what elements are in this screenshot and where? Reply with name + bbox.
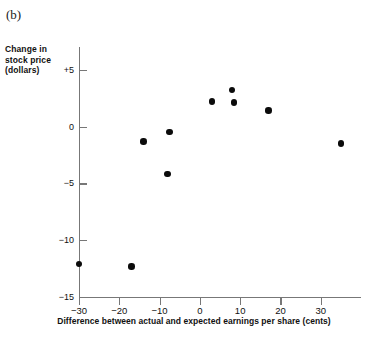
y-tick-mark xyxy=(80,183,87,184)
x-axis-line xyxy=(79,297,361,298)
plot-area: +50−5−10−15 −30−20−100102030 xyxy=(79,47,361,297)
y-tick-mark xyxy=(80,127,87,128)
scatter-point xyxy=(209,98,215,104)
x-tick-mark xyxy=(321,298,322,305)
x-tick-label: 30 xyxy=(315,306,326,316)
x-axis-title: Difference between actual and expected e… xyxy=(0,316,388,326)
y-tick-mark xyxy=(80,70,87,71)
scatter-point xyxy=(164,171,170,177)
x-tick-label: −20 xyxy=(111,306,127,316)
x-tick-mark xyxy=(160,298,161,305)
y-tick-mark xyxy=(80,240,87,241)
y-tick-label: 0 xyxy=(69,122,74,131)
x-tick-label: −10 xyxy=(152,306,168,316)
x-tick-label: −30 xyxy=(71,306,87,316)
scatter-point xyxy=(265,107,271,113)
x-tick-mark xyxy=(240,298,241,305)
scatter-point xyxy=(166,129,172,135)
y-axis-line xyxy=(79,47,80,297)
x-tick-label: 0 xyxy=(197,306,202,316)
panel-label: (b) xyxy=(6,8,21,22)
scatter-point xyxy=(338,140,344,146)
y-tick-label: −10 xyxy=(59,236,74,245)
x-tick-label: 10 xyxy=(235,306,246,316)
x-tick-mark xyxy=(79,298,80,305)
x-tick-mark xyxy=(119,298,120,305)
y-axis-title-line-1: Change in xyxy=(5,44,83,55)
y-tick-label: +5 xyxy=(64,65,74,74)
figure-panel-b: (b) Change in stock price (dollars) +50−… xyxy=(0,0,388,337)
scatter-point xyxy=(140,138,146,144)
x-tick-label: 20 xyxy=(275,306,286,316)
x-tick-mark xyxy=(200,298,201,305)
scatter-point xyxy=(128,263,134,269)
y-tick-mark xyxy=(80,297,87,298)
y-tick-label: −5 xyxy=(64,179,74,188)
scatter-point xyxy=(231,99,237,105)
scatter-point xyxy=(229,87,235,93)
x-tick-mark xyxy=(280,298,281,305)
y-tick-label: −15 xyxy=(59,293,74,302)
scatter-point xyxy=(76,261,82,267)
